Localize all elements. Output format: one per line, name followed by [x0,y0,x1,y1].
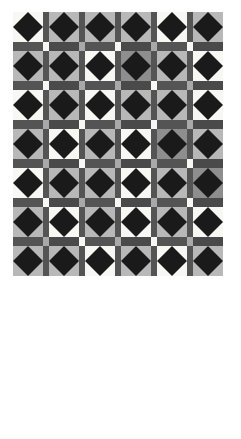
pinwheel-block [193,51,223,81]
pinwheel-triangle [157,246,172,261]
pinwheel-quadrant [136,207,151,222]
quilt-block-row [13,129,223,159]
pinwheel-triangle [193,261,208,276]
sashing-segment [121,237,151,246]
sashing-segment [157,81,187,90]
pinwheel-triangle [85,246,100,261]
pinwheel-quadrant [121,27,136,42]
pinwheel-triangle [100,261,115,276]
pinwheel-quadrant [100,222,115,237]
pinwheel-quadrant [157,222,172,237]
pinwheel-triangle [100,246,115,261]
pinwheel-quadrant [28,129,43,144]
pinwheel-block [157,129,187,159]
pinwheel-triangle [13,105,28,120]
pinwheel-triangle [28,246,43,261]
pinwheel-triangle [100,105,115,120]
pinwheel-block [49,90,79,120]
pinwheel-quadrant [136,129,151,144]
quilt-block-row [13,168,223,198]
pinwheel-triangle [64,207,79,222]
pinwheel-quadrant [208,207,223,222]
sashing-segment [121,120,151,129]
pinwheel-triangle [64,90,79,105]
horizontal-sashing-row [13,237,223,246]
pinwheel-triangle [208,129,223,144]
pinwheel-block [85,90,115,120]
pinwheel-quadrant [172,207,187,222]
sashing-segment [49,120,79,129]
pinwheel-quadrant [193,12,208,27]
pinwheel-quadrant [121,168,136,183]
pinwheel-quadrant [157,261,172,276]
quilt-block-row [13,12,223,42]
pinwheel-quadrant [208,12,223,27]
pinwheel-triangle [208,66,223,81]
pinwheel-quadrant [49,183,64,198]
pinwheel-triangle [193,51,208,66]
pinwheel-quadrant [49,261,64,276]
pinwheel-quadrant [49,168,64,183]
pinwheel-quadrant [13,105,28,120]
pinwheel-triangle [157,129,172,144]
pinwheel-triangle [100,66,115,81]
pinwheel-triangle [193,66,208,81]
sashing-segment [85,81,115,90]
pinwheel-block [13,207,43,237]
pinwheel-triangle [157,168,172,183]
pinwheel-block [13,129,43,159]
pinwheel-triangle [100,90,115,105]
pinwheel-quadrant [64,51,79,66]
pinwheel-quadrant [157,168,172,183]
pinwheel-triangle [49,246,64,261]
pinwheel-quadrant [85,66,100,81]
pinwheel-quadrant [49,12,64,27]
sashing-segment [157,159,187,168]
pinwheel-triangle [208,105,223,120]
pinwheel-quadrant [136,183,151,198]
pinwheel-quadrant [193,90,208,105]
pinwheel-triangle [193,27,208,42]
pinwheel-block [121,246,151,276]
pinwheel-triangle [64,12,79,27]
pinwheel-triangle [28,207,43,222]
pinwheel-quadrant [49,66,64,81]
pinwheel-quadrant [193,105,208,120]
pinwheel-block [121,51,151,81]
pinwheel-block [193,12,223,42]
pinwheel-triangle [28,105,43,120]
pinwheel-quadrant [193,129,208,144]
pinwheel-quadrant [121,66,136,81]
pinwheel-block [13,246,43,276]
pinwheel-quadrant [100,90,115,105]
pinwheel-triangle [157,27,172,42]
pinwheel-triangle [157,90,172,105]
pinwheel-quadrant [172,246,187,261]
pinwheel-triangle [85,27,100,42]
pinwheel-quadrant [157,105,172,120]
pinwheel-triangle [121,261,136,276]
pinwheel-triangle [49,90,64,105]
pinwheel-quadrant [28,183,43,198]
pinwheel-triangle [193,207,208,222]
pinwheel-quadrant [121,12,136,27]
pinwheel-triangle [13,183,28,198]
pinwheel-quadrant [100,12,115,27]
pinwheel-block [85,168,115,198]
sashing-segment [85,120,115,129]
pinwheel-quadrant [49,222,64,237]
pinwheel-block [193,246,223,276]
pinwheel-quadrant [100,144,115,159]
pinwheel-quadrant [172,27,187,42]
pinwheel-triangle [172,90,187,105]
pinwheel-quadrant [157,246,172,261]
pinwheel-triangle [49,12,64,27]
pinwheel-triangle [193,12,208,27]
pinwheel-quadrant [85,129,100,144]
horizontal-sashing-row [13,198,223,207]
pinwheel-triangle [100,51,115,66]
pinwheel-quadrant [208,27,223,42]
pinwheel-triangle [28,129,43,144]
sashing-segment [49,237,79,246]
pinwheel-triangle [121,90,136,105]
